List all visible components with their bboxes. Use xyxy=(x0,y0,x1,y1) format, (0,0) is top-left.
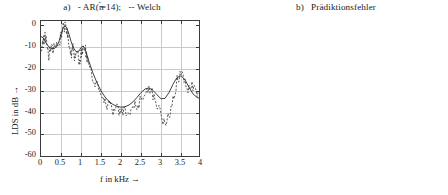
panel-a-title-prefix: a) xyxy=(63,2,70,12)
figure-container: a) - AR(n̂=14); -- Welch xyxy=(0,0,448,195)
x-tick-label: 3.5 xyxy=(175,158,185,168)
x-tick-label: 4 xyxy=(198,158,202,168)
panel-b-title-text: Prädiktionsfehler xyxy=(311,2,376,12)
panel-a-title-welch: -- Welch xyxy=(128,2,160,12)
panel-a-y-axis-title: LDS in dB → xyxy=(10,86,21,135)
panel-b-title-prefix: b) xyxy=(296,2,304,12)
x-tick-label: 2 xyxy=(118,158,122,168)
ar-curve xyxy=(41,26,200,107)
panel-b-title: b) Prädiktionsfehler xyxy=(224,1,448,13)
panel-a-title: a) - AR(n̂=14); -- Welch xyxy=(0,1,224,14)
x-tick-label: 1.5 xyxy=(95,158,105,168)
panel-a-plot-area xyxy=(40,20,200,157)
y-tick-label: -20 xyxy=(14,63,36,73)
welch-curve xyxy=(41,22,200,126)
panel-a-x-axis-title: f in kHz → xyxy=(100,174,140,185)
x-tick-label: 0.5 xyxy=(55,158,65,168)
panel-a-spectrum: a) - AR(n̂=14); -- Welch xyxy=(0,0,224,195)
panel-b-prediction-error: b) Prädiktionsfehler xyxy=(224,0,448,195)
x-tick-label: 1 xyxy=(78,158,82,168)
panel-a-title-ar-tail: =14); xyxy=(101,2,121,12)
y-tick-label: 0 xyxy=(14,19,36,29)
x-tick-label: 2.5 xyxy=(135,158,145,168)
y-tick-label: -10 xyxy=(14,41,36,51)
x-tick-label: 0 xyxy=(38,158,42,168)
panel-a-curves xyxy=(41,21,200,157)
y-tick-label: -60 xyxy=(14,150,36,160)
x-tick-label: 3 xyxy=(158,158,162,168)
